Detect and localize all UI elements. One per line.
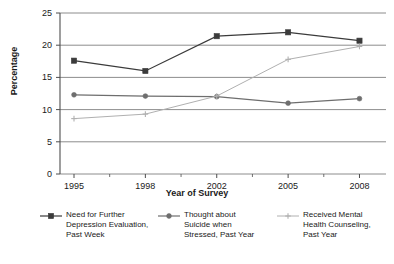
y-tick-label: 15 [26, 73, 52, 82]
data-point-circle [286, 101, 291, 106]
data-point-circle [357, 96, 362, 101]
y-tick-label: 20 [26, 41, 52, 50]
data-point-square [214, 34, 219, 39]
y-tick-label: 5 [26, 138, 52, 147]
legend-item-2[interactable]: Thought about Suicide when Stressed, Pas… [158, 210, 276, 240]
legend-label: Received Mental Health Counseling, Past … [303, 210, 371, 240]
series-layer [71, 30, 362, 122]
square-marker-icon [40, 211, 62, 221]
series-1 [71, 30, 362, 74]
line-chart-figure: 2520151050 19951998200220052008 Percenta… [0, 0, 394, 264]
chart-canvas [0, 0, 394, 200]
data-point-square [48, 213, 53, 218]
data-point-square [71, 58, 76, 63]
y-tick-label: 10 [26, 106, 52, 115]
data-point-circle [143, 94, 148, 99]
legend-item-3[interactable]: Received Mental Health Counseling, Past … [277, 210, 394, 240]
data-point-cross [285, 57, 291, 63]
y-axis-title: Percentage [9, 31, 19, 111]
series-line [74, 46, 359, 118]
data-point-cross [71, 116, 77, 122]
legend-label: Thought about Suicide when Stressed, Pas… [184, 210, 254, 240]
legend-label: Need for Further Depression Evaluation, … [66, 210, 148, 240]
data-point-circle [72, 92, 77, 97]
data-point-cross [143, 111, 149, 117]
legend-item-1[interactable]: Need for Further Depression Evaluation, … [40, 210, 160, 240]
chart-legend: Need for Further Depression Evaluation, … [0, 210, 394, 264]
x-axis-title: Year of Survey [0, 188, 394, 198]
data-point-circle [167, 214, 172, 219]
y-tick-label: 25 [26, 9, 52, 18]
y-tick-label: 0 [26, 170, 52, 179]
cross-marker-icon [277, 211, 299, 221]
data-point-square [357, 38, 362, 43]
data-point-cross [285, 213, 291, 219]
circle-marker-icon [158, 211, 180, 221]
data-point-square [143, 68, 148, 73]
data-point-square [286, 30, 291, 35]
plot-area: 2520151050 19951998200220052008 Percenta… [0, 0, 394, 200]
data-point-cross [357, 44, 363, 50]
gridlines [60, 13, 386, 174]
